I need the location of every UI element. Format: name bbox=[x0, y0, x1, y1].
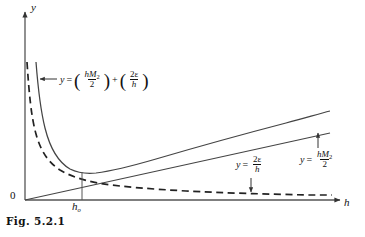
plot-canvas bbox=[0, 0, 365, 237]
hyp-equals: = bbox=[241, 160, 249, 170]
fraction-2eps-over-h: 2ε h bbox=[128, 70, 140, 90]
sum-term2-den: h bbox=[130, 79, 139, 89]
sum-plus: + bbox=[111, 75, 119, 85]
series-line-hm2-over-2 bbox=[25, 133, 330, 200]
sum-term1-den: 2 bbox=[88, 79, 97, 89]
hyp-lhs: y bbox=[236, 160, 240, 170]
fraction-hm2-over-2: hM2 2 bbox=[82, 70, 101, 90]
h0-tick-base: h bbox=[72, 200, 78, 212]
sum-term1-num: hM bbox=[84, 69, 96, 79]
hyp-num: 2ε bbox=[251, 155, 263, 164]
annotation-hyperbola-curve: y = 2ε h bbox=[236, 155, 264, 175]
fraction-hyp-2eps-over-h: 2ε h bbox=[251, 155, 263, 175]
line-den: 2 bbox=[320, 159, 329, 169]
line-num: hM bbox=[317, 149, 329, 159]
h0-tick-subscript: o bbox=[78, 206, 81, 213]
paren-open-2: ( bbox=[120, 74, 126, 88]
sum-equals: = bbox=[65, 75, 73, 85]
h0-tick-label: ho bbox=[72, 201, 81, 212]
figure-caption: Fig. 5.2.1 bbox=[6, 216, 65, 227]
figure-container: y h 0 ho y = ( hM2 2 ) + ( 2ε h ) y = bbox=[0, 0, 365, 237]
origin-label: 0 bbox=[10, 190, 16, 201]
sum-term1-num-sub: 2 bbox=[96, 73, 99, 80]
x-axis-label: h bbox=[344, 197, 350, 208]
paren-close-2: ) bbox=[142, 74, 148, 88]
paren-open-1: ( bbox=[74, 74, 80, 88]
line-num-sub: 2 bbox=[329, 153, 332, 160]
sum-term2-num: 2ε bbox=[128, 70, 140, 79]
line-equals: = bbox=[305, 155, 313, 165]
y-axis-label: y bbox=[31, 2, 36, 13]
fraction-line-hm2-over-2: hM2 2 bbox=[315, 150, 334, 170]
line-lhs: y bbox=[300, 155, 304, 165]
annotation-line-curve: y = hM2 2 bbox=[300, 150, 335, 170]
annotation-sum-curve: y = ( hM2 2 ) + ( 2ε h ) bbox=[60, 70, 149, 90]
sum-lhs: y bbox=[60, 75, 64, 85]
hyp-den: h bbox=[253, 164, 262, 174]
paren-close-1: ) bbox=[104, 74, 110, 88]
